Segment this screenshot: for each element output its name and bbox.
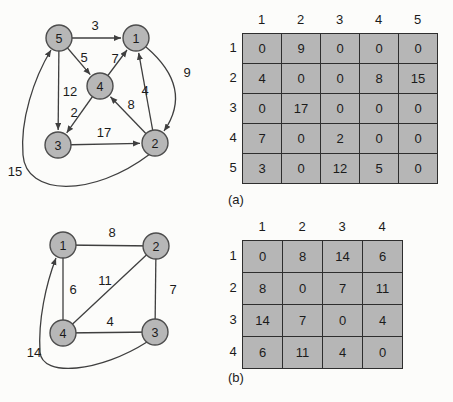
matrix-cell: 0: [360, 94, 399, 124]
matrix-cell: 11: [283, 337, 323, 369]
matrix-cell: 8: [243, 273, 283, 305]
matrix-header-row: 12345: [224, 7, 438, 33]
matrix-row: 400815: [243, 64, 438, 94]
graph-node-label: 3: [55, 139, 62, 153]
matrix-row-header: 3: [224, 304, 242, 336]
matrix-cell: 0: [282, 64, 321, 94]
matrix-cell: 5: [360, 154, 399, 184]
matrix-cell: 0: [399, 154, 438, 184]
matrix-col-header: 1: [242, 7, 281, 33]
edge-weight-label: 7: [169, 282, 176, 297]
matrix-body: 123408146807111470461140: [224, 240, 403, 369]
graph-node-label: 1: [60, 239, 67, 253]
matrix-cell: 4: [243, 64, 282, 94]
edge-weight-label: 11: [98, 273, 112, 288]
matrix-col-header: 3: [322, 214, 362, 240]
edge-weight-label: 12: [63, 84, 77, 99]
matrix-cell: 0: [243, 94, 282, 124]
matrix-cell: 9: [282, 34, 321, 64]
matrix-cell: 12: [321, 154, 360, 184]
figure-a-caption-label: (a): [228, 192, 244, 207]
matrix-cell: 0: [283, 273, 323, 305]
matrix-cell: 4: [363, 305, 403, 337]
matrix-cell: 0: [321, 34, 360, 64]
graph-node-label: 3: [152, 326, 159, 340]
edge-weight-label: 8: [127, 97, 134, 112]
graph-node-label: 1: [133, 32, 140, 46]
graph-edge: [40, 258, 147, 368]
edge-weight-label: 2: [70, 105, 77, 120]
matrix-row-header: 5: [224, 153, 242, 183]
matrix-row: 09000: [243, 34, 438, 64]
matrix-cell: 0: [282, 154, 321, 184]
matrix-corner-spacer: [224, 214, 242, 240]
edge-weight-label: 6: [69, 282, 76, 297]
matrix-row-header: 4: [224, 123, 242, 153]
textbook-figure-page: 357412281791551432 123451234509000400815…: [0, 0, 453, 402]
figure-b-caption-label: (b): [228, 370, 244, 385]
directed-weighted-graph-a: 357412281791551432: [0, 0, 226, 200]
matrix-cell: 8: [283, 241, 323, 273]
matrix-cell: 17: [282, 94, 321, 124]
matrix-cell: 8: [360, 64, 399, 94]
matrix-corner-spacer: [224, 7, 242, 33]
matrix-row-headers: 12345: [224, 33, 242, 184]
matrix-cell: 0: [399, 124, 438, 154]
edge-weight-label: 14: [27, 345, 41, 360]
graph-node-label: 4: [97, 80, 104, 94]
matrix-body: 123450900040081501700070200301250: [224, 33, 438, 184]
graph-node-label: 2: [152, 137, 159, 151]
matrix-cell: 0: [360, 34, 399, 64]
matrix-row: 301250: [243, 154, 438, 184]
matrix-row: 14704: [243, 305, 403, 337]
matrix-cell: 0: [363, 337, 403, 369]
matrix-cell: 0: [243, 34, 282, 64]
matrix-cell: 4: [323, 337, 363, 369]
edge-weight-label: 9: [183, 65, 190, 80]
matrix-row-header: 1: [224, 33, 242, 63]
matrix-row: 80711: [243, 273, 403, 305]
matrix-cell: 6: [243, 337, 283, 369]
edge-weight-label: 4: [141, 83, 148, 98]
matrix-cell: 15: [399, 64, 438, 94]
graph-edge: [63, 245, 156, 246]
matrix-row-header: 2: [224, 63, 242, 93]
matrix-row: 61140: [243, 337, 403, 369]
matrix-cell: 0: [399, 34, 438, 64]
matrix-row-header: 4: [224, 336, 242, 368]
matrix-cell: 3: [243, 154, 282, 184]
matrix-cell: 0: [243, 241, 283, 273]
adjacency-matrix-a: 12345123450900040081501700070200301250: [224, 7, 438, 184]
matrix-row-header: 3: [224, 93, 242, 123]
matrix-cell: 14: [323, 241, 363, 273]
edge-weight-label: 15: [8, 164, 22, 179]
matrix-cell: 0: [399, 94, 438, 124]
matrix-col-header: 4: [362, 214, 402, 240]
undirected-weighted-graph-b: 861174141243: [0, 200, 226, 402]
edge-weight-label: 17: [97, 125, 111, 140]
matrix-cell: 0: [360, 124, 399, 154]
matrix-col-header: 3: [320, 7, 359, 33]
matrix-row: 017000: [243, 94, 438, 124]
matrix-grid: 0900040081501700070200301250: [242, 33, 438, 184]
matrix-col-header: 2: [281, 7, 320, 33]
matrix-cell: 0: [321, 94, 360, 124]
matrix-cell: 11: [363, 273, 403, 305]
edge-weight-label: 7: [111, 51, 118, 66]
matrix-col-header: 1: [242, 214, 282, 240]
adjacency-matrix-b: 1234123408146807111470461140: [224, 214, 403, 369]
matrix-header-row: 1234: [224, 214, 403, 240]
matrix-cell: 0: [282, 124, 321, 154]
matrix-cell: 2: [321, 124, 360, 154]
matrix-row: 08146: [243, 241, 403, 273]
matrix-cell: 14: [243, 305, 283, 337]
matrix-cell: 7: [243, 124, 282, 154]
matrix-row-headers: 1234: [224, 240, 242, 369]
graph-node-label: 4: [60, 327, 67, 341]
matrix-col-header: 4: [359, 7, 398, 33]
edge-weight-label: 8: [108, 225, 115, 240]
matrix-cell: 7: [323, 273, 363, 305]
matrix-row-header: 2: [224, 272, 242, 304]
matrix-row: 70200: [243, 124, 438, 154]
matrix-cell: 7: [283, 305, 323, 337]
